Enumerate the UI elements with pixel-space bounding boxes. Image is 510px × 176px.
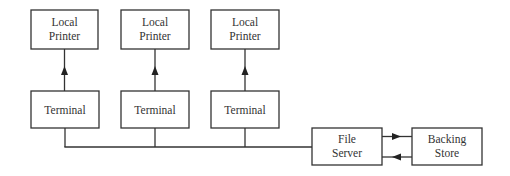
arrowhead-up-icon — [242, 66, 249, 75]
file-server: File Server — [312, 128, 382, 165]
printer-1-label-line2: Printer — [49, 30, 80, 42]
arrowhead-up-icon — [61, 66, 68, 75]
local-printer-2: Local Printer — [121, 10, 189, 49]
terminal-2: Terminal — [121, 91, 189, 128]
arrowhead-up-icon — [152, 66, 159, 75]
terminal-1-label: Terminal — [44, 104, 85, 116]
arrow-terminal2-to-printer2 — [152, 49, 159, 91]
arrow-fileserver-to-backingstore — [382, 133, 412, 140]
file-server-label-line2: Server — [332, 147, 362, 159]
arrowhead-left-icon — [392, 154, 401, 161]
terminal-2-label: Terminal — [134, 104, 175, 116]
terminal-1: Terminal — [31, 91, 99, 128]
local-printer-3: Local Printer — [211, 10, 279, 49]
backing-store-label-line1: Backing — [428, 133, 467, 146]
arrow-terminal1-to-printer1 — [61, 49, 68, 91]
network-diagram: Local Printer Local Printer Local Printe… — [0, 0, 510, 176]
printer-3-label-line2: Printer — [229, 30, 260, 42]
terminal-3-label: Terminal — [224, 104, 265, 116]
terminal-3: Terminal — [211, 91, 279, 128]
arrowhead-right-icon — [392, 133, 401, 140]
printer-2-label-line1: Local — [142, 16, 168, 28]
printer-1-label-line1: Local — [51, 16, 77, 28]
terminal-bus — [64, 128, 312, 147]
arrow-terminal3-to-printer3 — [242, 49, 249, 91]
local-printer-1: Local Printer — [31, 10, 98, 49]
arrow-backingstore-to-fileserver — [382, 154, 412, 161]
file-server-label-line1: File — [338, 133, 356, 145]
backing-store: Backing Store — [412, 128, 482, 165]
printer-3-label-line1: Local — [232, 16, 258, 28]
backing-store-label-line2: Store — [435, 147, 459, 159]
printer-2-label-line2: Printer — [139, 30, 170, 42]
